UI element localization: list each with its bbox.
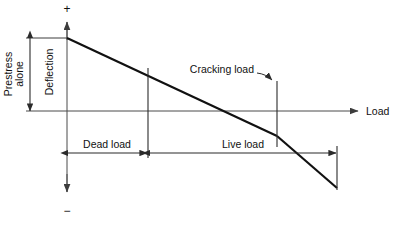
dead-load-label: Dead load — [83, 138, 131, 150]
axis-group — [26, 22, 358, 192]
postcracking-segment — [277, 136, 337, 188]
cracking-load-label: Cracking load — [190, 63, 254, 75]
precracking-segment — [67, 38, 277, 136]
live-load-dimension: Live load — [150, 138, 336, 153]
y-axis-label: Deflection — [43, 49, 55, 96]
prestress-alone-label-line2: alone — [13, 61, 25, 87]
deflection-curve-group — [67, 38, 337, 188]
dead-load-dimension: Dead load — [68, 138, 147, 153]
cracking-leader-arrow-icon — [257, 73, 272, 80]
x-axis-label: Load — [366, 105, 390, 117]
positive-sign-label: + — [63, 2, 70, 16]
cracking-load-annotation: Cracking load — [190, 63, 277, 147]
diagram-canvas: + − Prestress alone Deflection Load Crac… — [0, 0, 396, 226]
negative-sign-label: − — [63, 204, 70, 218]
prestress-alone-dimension: Prestress alone — [2, 38, 67, 111]
deflection-load-diagram: + − Prestress alone Deflection Load Crac… — [0, 0, 396, 226]
live-load-label: Live load — [222, 138, 264, 150]
